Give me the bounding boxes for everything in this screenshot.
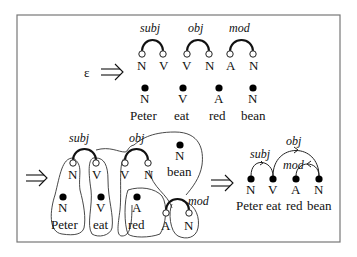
word-label: red — [209, 108, 226, 123]
word-label: Peter — [51, 217, 78, 232]
slot-label: A — [226, 58, 236, 73]
epsilon-symbol: ε — [84, 65, 90, 80]
relation-label: mod — [188, 194, 210, 208]
relation-label: subj — [140, 21, 161, 35]
pos-label: V — [178, 91, 188, 106]
word-label: bean — [241, 108, 266, 123]
pos-label: N — [314, 182, 324, 197]
word-label: bean — [307, 198, 332, 213]
word-label: eat — [174, 108, 190, 123]
relation-label: obj — [286, 134, 302, 148]
pos-label: V — [268, 182, 278, 197]
relation-label: subj — [250, 147, 271, 161]
open-node-icon — [139, 51, 145, 57]
word-label: red — [128, 217, 145, 232]
slot-label: V — [182, 58, 192, 73]
word-label: eat — [93, 217, 109, 232]
slot-label: V — [92, 167, 102, 182]
open-node-icon — [93, 160, 99, 166]
relation-label: mod — [283, 158, 305, 172]
slot-label: N — [249, 58, 259, 73]
pos-label: A — [132, 200, 142, 215]
open-node-icon — [145, 160, 151, 166]
word-label: Peter — [130, 108, 157, 123]
slot-label: N — [137, 58, 147, 73]
slot-label: V — [120, 167, 130, 182]
open-node-icon — [206, 51, 212, 57]
slot-label: N — [144, 167, 154, 182]
pos-label: N — [248, 91, 258, 106]
open-node-icon — [160, 51, 166, 57]
open-node-icon — [227, 51, 233, 57]
slot-label: N — [205, 58, 215, 73]
word-label: bean — [167, 164, 192, 179]
open-node-icon — [163, 210, 169, 216]
open-node-icon — [250, 51, 256, 57]
pos-label: N — [246, 182, 256, 197]
open-node-icon — [122, 160, 128, 166]
relation-label: subj — [69, 131, 90, 145]
pos-label: N — [140, 91, 150, 106]
word-label: eat — [266, 198, 282, 213]
relation-label: obj — [188, 21, 204, 35]
pos-label: N — [58, 200, 68, 215]
word-label: Peter — [236, 198, 263, 213]
pos-label: A — [214, 91, 224, 106]
open-node-icon — [186, 210, 192, 216]
slot-label: V — [159, 58, 169, 73]
open-node-icon — [184, 51, 190, 57]
diagram-canvas: ε subj N V obj V N mod — [0, 0, 357, 257]
open-node-icon — [70, 160, 76, 166]
slot-label: A — [161, 218, 171, 233]
slot-label: N — [184, 218, 194, 233]
relation-label: obj — [129, 131, 145, 145]
pos-label: V — [96, 200, 106, 215]
word-label: red — [286, 198, 303, 213]
pos-label: N — [175, 148, 185, 163]
slot-label: N — [68, 167, 78, 182]
pos-label: A — [291, 182, 301, 197]
relation-label: mod — [229, 21, 251, 35]
